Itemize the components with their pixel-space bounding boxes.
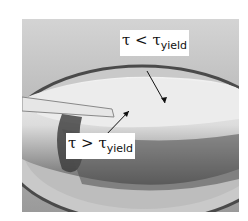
- label-symbol: τ < τ: [122, 31, 161, 49]
- label-above-yield: τ > τyield: [66, 133, 135, 159]
- label-below-yield: τ < τyield: [120, 30, 189, 56]
- label-subscript: yield: [161, 39, 187, 52]
- label-subscript: yield: [107, 142, 133, 155]
- label-symbol: τ > τ: [68, 134, 107, 152]
